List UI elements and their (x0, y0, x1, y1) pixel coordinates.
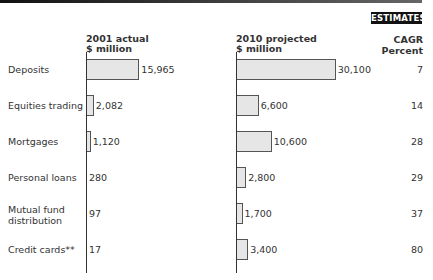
value-cagr: 14 (411, 100, 423, 111)
value-2001-actual: 2,082 (96, 100, 123, 111)
header-cagr-line1: CAGR (382, 34, 423, 45)
top-rule (0, 0, 422, 3)
row-label: Credit cards** (8, 244, 88, 255)
row-label: Mutual fund distribution (8, 204, 78, 226)
value-2001-actual: 280 (89, 172, 107, 183)
bar-2010-projected (237, 167, 246, 188)
row-label: Deposits (8, 64, 88, 75)
header-2010-projected: 2010 projected $ million (236, 34, 317, 54)
value-cagr: 7 (417, 64, 423, 75)
value-2001-actual: 15,965 (141, 64, 174, 75)
bar-2010-projected (237, 239, 248, 260)
value-2010-projected: 2,800 (248, 172, 275, 183)
header-2001-line2: $ million (86, 44, 149, 54)
value-2010-projected: 6,600 (261, 100, 288, 111)
value-2001-actual: 97 (89, 208, 101, 219)
bar-2010-projected (237, 59, 336, 80)
value-cagr: 37 (411, 208, 423, 219)
value-cagr: 29 (411, 172, 423, 183)
axis-2001 (86, 52, 87, 273)
value-cagr: 80 (411, 244, 423, 255)
value-cagr: 28 (411, 136, 423, 147)
bar-2001-actual (87, 59, 139, 80)
header-cagr: CAGR Percent (382, 34, 423, 56)
bar-2010-projected (237, 203, 243, 224)
estimates-badge: ESTIMATES (371, 12, 422, 24)
value-2001-actual: 17 (89, 244, 101, 255)
bar-2010-projected (237, 95, 259, 116)
value-2010-projected: 10,600 (274, 136, 307, 147)
value-2010-projected: 30,100 (338, 64, 371, 75)
value-2001-actual: 1,120 (93, 136, 120, 147)
row-label: Personal loans (8, 172, 88, 183)
header-2001-actual: 2001 actual $ million (86, 34, 149, 54)
header-cagr-line2: Percent (382, 45, 423, 56)
bar-2001-actual (87, 95, 94, 116)
row-label: Mortgages (8, 136, 88, 147)
value-2010-projected: 1,700 (245, 208, 272, 219)
value-2010-projected: 3,400 (250, 244, 277, 255)
header-2010-line2: $ million (236, 44, 317, 54)
row-label: Equities trading (8, 100, 88, 111)
bar-2010-projected (237, 131, 272, 152)
bar-2001-actual (87, 131, 91, 152)
